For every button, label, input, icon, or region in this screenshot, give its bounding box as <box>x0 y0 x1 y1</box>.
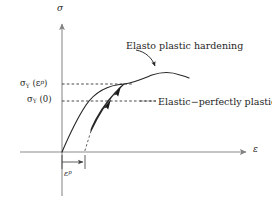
curve-group <box>62 73 189 152</box>
plastic-strain-dimension <box>62 155 85 169</box>
loop-direction-arrows <box>104 86 121 110</box>
subscript-y: Y <box>26 82 30 89</box>
sigma-y-hardened-label: σY (εp) <box>20 79 47 89</box>
plastic-superscript: p <box>68 169 72 175</box>
elasto-plastic-hardening-curve <box>62 73 189 152</box>
reload-arrow-upper-icon <box>114 86 121 97</box>
sigma-y-initial-label: σY (0) <box>27 95 52 104</box>
perfectly-plastic-annotation-label: Elastic−perfectly plastic <box>158 97 272 107</box>
argument-zero: (0) <box>39 94 51 104</box>
x-axis-label: ε <box>253 145 258 154</box>
plastic-strain-dimension-label: εp <box>64 170 72 178</box>
subscript-y: Y <box>33 97 37 104</box>
hardening-leader-arrow <box>136 50 155 66</box>
leader-group <box>136 50 155 66</box>
argument-close: ) <box>44 78 47 88</box>
plastic-strain-projection-line <box>85 131 92 152</box>
hardening-annotation-label: Elasto plastic hardening <box>126 41 243 51</box>
y-axis-label: σ <box>57 4 63 13</box>
